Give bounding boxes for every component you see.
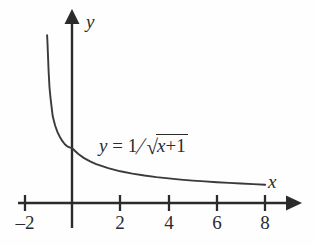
x-tick-label-4: 4: [164, 213, 174, 232]
y-axis-arrowhead: [65, 9, 80, 24]
equation-radicand: x+1: [156, 134, 188, 155]
radicand-operator: +: [165, 135, 176, 156]
x-tick-label-minus-2: –2: [16, 213, 35, 232]
x-tick-label-6: 6: [212, 213, 222, 232]
radicand-second-term: 1: [176, 135, 186, 156]
x-tick-label-8: 8: [260, 213, 270, 232]
x-axis-arrowhead: [286, 196, 302, 211]
equation-equals: =: [112, 135, 123, 156]
plot-svg: [0, 0, 315, 246]
x-tick-label-2: 2: [115, 213, 125, 232]
equation-radical: √x+1: [144, 134, 187, 158]
x-axis-label: x: [268, 172, 276, 191]
curve-y-equals-one-over-sqrt-x-plus-one: [47, 35, 265, 184]
equation-annotation: y = 1/√x+1: [99, 134, 188, 158]
figure-canvas: y x –2 2 4 6 8 y = 1/√x+1: [0, 0, 315, 246]
equation-lhs: y: [99, 135, 107, 156]
y-axis-label: y: [86, 12, 94, 31]
